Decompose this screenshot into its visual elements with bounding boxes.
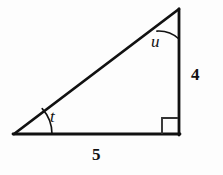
hypotenuse-line (14, 9, 179, 134)
triangle-figure: u t 4 5 (0, 0, 223, 175)
vertical-side-length-label: 4 (191, 66, 200, 83)
base-side-length-label: 5 (92, 146, 101, 163)
angle-u-label: u (151, 33, 160, 50)
right-angle-marker-icon (162, 118, 177, 133)
angle-u-arc (157, 31, 179, 39)
triangle-drawing (0, 0, 223, 175)
angle-t-label: t (50, 108, 55, 125)
